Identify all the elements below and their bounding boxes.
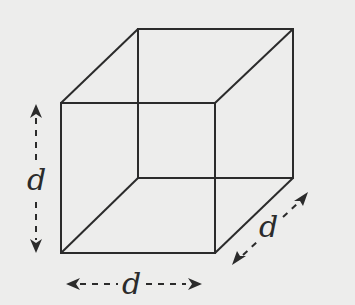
depth-dimension: d xyxy=(232,192,308,265)
arrow-up-icon xyxy=(30,104,42,118)
arrow-up-right-icon xyxy=(294,192,308,206)
arrow-right-icon xyxy=(188,278,202,290)
depth-label: d xyxy=(259,209,278,244)
depth-dashed-line-upper xyxy=(283,204,297,217)
arrow-left-icon xyxy=(66,278,80,290)
edge-top-left xyxy=(61,29,138,103)
depth-dashed-line-lower xyxy=(243,241,258,255)
edge-bottom-right xyxy=(215,178,293,253)
height-dimension: d xyxy=(27,104,46,253)
width-label: d xyxy=(122,266,141,301)
cube-diagram: d d d xyxy=(0,0,355,305)
arrow-down-icon xyxy=(30,239,42,253)
width-dimension: d xyxy=(66,266,202,301)
height-label: d xyxy=(27,162,46,197)
edge-top-right xyxy=(215,29,293,103)
edge-bottom-left xyxy=(61,178,138,253)
